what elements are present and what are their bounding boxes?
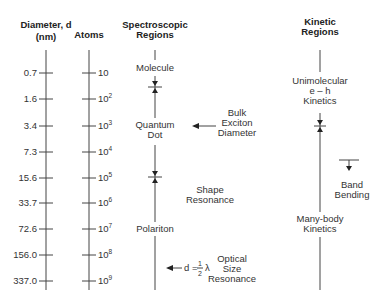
atoms-header: Atoms bbox=[74, 29, 104, 40]
diameter-tick-label: 156.0 bbox=[13, 249, 37, 260]
band-bending-label-line2: Bending bbox=[335, 189, 370, 200]
arrow-left-icon bbox=[192, 123, 216, 129]
diameter-tick-label: 1.6 bbox=[24, 93, 37, 104]
kinetic-header-line2: Regions bbox=[301, 26, 338, 37]
size-regimes-diagram: Diameter, d (nm) Atoms Spectroscopic Reg… bbox=[0, 0, 384, 306]
many-body-label-line2: Kinetics bbox=[303, 223, 337, 234]
molecule-label: Molecule bbox=[136, 62, 174, 73]
optical-size-label-line3: Resonance bbox=[208, 273, 256, 284]
shape-resonance-label-line2: Resonance bbox=[186, 194, 234, 205]
atoms-tick-label: 109 bbox=[98, 274, 113, 286]
arrow-left-icon bbox=[166, 265, 182, 271]
diameter-tick-label: 0.7 bbox=[24, 67, 37, 78]
diameter-tick-label: 337.0 bbox=[13, 275, 37, 286]
diameter-tick-label: 3.4 bbox=[24, 120, 37, 131]
quantum-dot-label-line2: Dot bbox=[148, 129, 163, 140]
atoms-tick-label: 10 bbox=[98, 67, 109, 78]
diameter-tick-label: 33.7 bbox=[19, 197, 38, 208]
optical-formula-lambda: λ bbox=[205, 262, 210, 273]
boundary-marker-icon bbox=[314, 120, 326, 132]
atoms-tick-label: 104 bbox=[98, 145, 113, 157]
atoms-tick-label: 103 bbox=[98, 119, 113, 131]
band-bending-marker-icon bbox=[339, 160, 359, 171]
atoms-tick-label: 102 bbox=[98, 92, 113, 104]
optical-formula-d: d = bbox=[184, 262, 198, 273]
spectroscopic-header-line2: Regions bbox=[136, 29, 173, 40]
atoms-tick-label: 106 bbox=[98, 196, 113, 208]
atoms-tick-label: 108 bbox=[98, 248, 113, 260]
polariton-label: Polariton bbox=[136, 223, 174, 234]
diameter-tick-label: 72.6 bbox=[19, 223, 38, 234]
atoms-tick-label: 105 bbox=[98, 171, 113, 183]
diameter-tick-label: 7.3 bbox=[24, 146, 37, 157]
optical-formula-denominator: 2 bbox=[198, 270, 202, 277]
atoms-tick-label: 107 bbox=[98, 222, 113, 234]
unimolecular-label-line3: Kinetics bbox=[303, 95, 337, 106]
boundary-marker-icon bbox=[148, 171, 162, 183]
diameter-header-line1: Diameter, d bbox=[20, 19, 71, 30]
optical-formula-numerator: 1 bbox=[198, 260, 202, 267]
boundary-marker-icon bbox=[148, 81, 162, 93]
diameter-tick-label: 15.6 bbox=[19, 172, 38, 183]
diameter-header-line2: (nm) bbox=[36, 31, 57, 42]
bulk-exciton-label-line3: Diameter bbox=[218, 127, 257, 138]
